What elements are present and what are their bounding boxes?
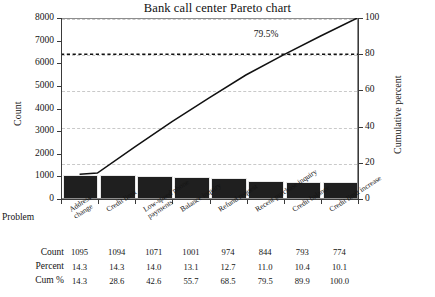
right-axis-tick-label: 0 <box>365 193 391 203</box>
right-axis-tick <box>359 54 363 55</box>
x-axis-title: Problem <box>2 212 34 222</box>
category-axis-tick <box>284 200 285 204</box>
category-axis-tick <box>210 200 211 204</box>
left-axis-tick <box>57 86 61 87</box>
left-axis-tick-label: 4000 <box>21 103 54 113</box>
gridline <box>62 91 357 92</box>
right-axis-tick-label: 100 <box>365 12 391 22</box>
gridline <box>62 128 357 129</box>
left-axis-tick <box>57 63 61 64</box>
left-axis-tick-label: 8000 <box>21 12 54 22</box>
category-axis-tick <box>61 200 62 204</box>
left-axis-tick-label: 1000 <box>21 170 54 180</box>
right-axis-tick-label: 60 <box>365 84 391 94</box>
left-axis-tick <box>57 18 61 19</box>
right-axis-line <box>358 18 359 199</box>
bar <box>63 175 99 199</box>
left-axis-tick-label: 6000 <box>21 57 54 67</box>
category-axis-tick <box>321 200 322 204</box>
right-axis-tick <box>359 90 363 91</box>
right-axis-tick-label: 20 <box>365 157 391 167</box>
left-axis-tick <box>57 154 61 155</box>
left-axis-tick-label: 0 <box>21 193 54 203</box>
category-axis-tick <box>135 200 136 204</box>
left-axis-tick-label: 5000 <box>21 80 54 90</box>
right-axis-tick-label: 80 <box>365 48 391 58</box>
pareto-chart-figure: Bank call center Pareto chart 79.5% 8000… <box>0 0 435 297</box>
category-axis-tick <box>247 200 248 204</box>
category-axis-tick <box>358 200 359 204</box>
left-axis-tick-label: 2000 <box>21 148 54 158</box>
cumulative-annotation: 79.5% <box>254 29 279 39</box>
table-cell: 774 <box>313 247 366 257</box>
left-axis-line <box>61 18 62 199</box>
gridline <box>62 19 357 20</box>
left-axis-tick <box>57 109 61 110</box>
y-axis-title: Count <box>12 101 23 125</box>
right-axis-tick <box>359 163 363 164</box>
gridline <box>62 55 357 56</box>
y2-axis-title: Cumulative percent <box>392 75 403 154</box>
left-axis-tick <box>57 41 61 42</box>
left-axis-tick-label: 7000 <box>21 35 54 45</box>
right-axis-tick <box>359 127 363 128</box>
right-axis-tick-label: 40 <box>365 121 391 131</box>
left-axis-tick-label: 3000 <box>21 125 54 135</box>
right-axis-tick <box>359 18 363 19</box>
gridline <box>62 164 357 165</box>
table-cell: 100.0 <box>313 276 366 286</box>
left-axis-tick <box>57 131 61 132</box>
right-axis-tick <box>359 199 363 200</box>
category-axis-tick <box>98 200 99 204</box>
table-cell: 10.1 <box>313 262 366 272</box>
left-axis-tick <box>57 176 61 177</box>
